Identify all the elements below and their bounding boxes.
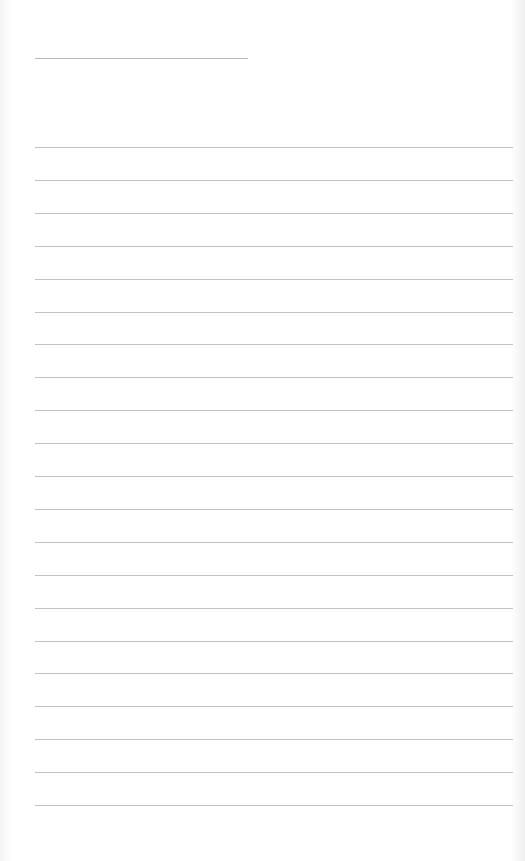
- ruled-line: [35, 279, 513, 280]
- ruled-line: [35, 509, 513, 510]
- ruled-line: [35, 180, 513, 181]
- ruled-line: [35, 344, 513, 345]
- ruled-line: [35, 608, 513, 609]
- ruled-line: [35, 213, 513, 214]
- ruled-line: [35, 312, 513, 313]
- ruled-line: [35, 542, 513, 543]
- ruled-line: [35, 706, 513, 707]
- lined-paper-sheet: [0, 0, 525, 861]
- ruled-line: [35, 673, 513, 674]
- title-line: [35, 58, 248, 59]
- ruled-line: [35, 739, 513, 740]
- ruled-line: [35, 443, 513, 444]
- ruled-line: [35, 805, 513, 806]
- ruled-line: [35, 246, 513, 247]
- ruled-line: [35, 575, 513, 576]
- ruled-line: [35, 772, 513, 773]
- ruled-line: [35, 147, 513, 148]
- ruled-line: [35, 476, 513, 477]
- ruled-line: [35, 410, 513, 411]
- ruled-line: [35, 377, 513, 378]
- ruled-line: [35, 641, 513, 642]
